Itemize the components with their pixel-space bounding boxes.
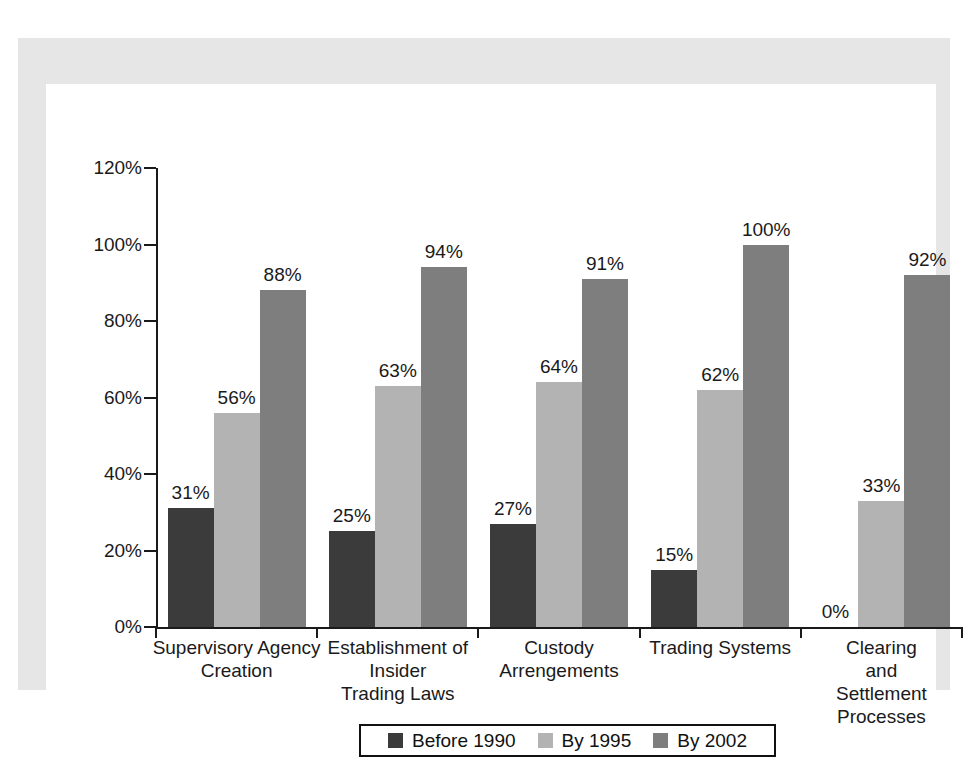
- category-label-line: Supervisory Agency: [153, 636, 321, 659]
- bar: [582, 279, 628, 627]
- bar-value-label: 56%: [218, 387, 256, 409]
- y-axis-tick-label: 80%: [46, 310, 142, 332]
- category-label-line: Establishment of: [328, 636, 468, 659]
- category-label-line: Processes: [836, 705, 927, 728]
- x-axis-tick: [961, 627, 963, 638]
- figure-panel: 0%20%40%60%80%100%120% 31%56%88%25%63%94…: [18, 38, 950, 690]
- bar: [168, 508, 214, 627]
- bar-value-label: 27%: [494, 498, 532, 520]
- plot-canvas: 0%20%40%60%80%100%120% 31%56%88%25%63%94…: [46, 84, 936, 718]
- bar: [421, 267, 467, 627]
- category-label-line: Trading Laws: [328, 682, 468, 705]
- bar-value-label: 62%: [701, 364, 739, 386]
- bar-value-label: 64%: [540, 356, 578, 378]
- bar: [904, 275, 950, 627]
- legend-item: Before 1990: [388, 730, 516, 752]
- bar-value-label: 63%: [379, 360, 417, 382]
- y-axis-tick-label: 40%: [46, 463, 142, 485]
- bar-value-label: 88%: [264, 264, 302, 286]
- chart-legend: Before 1990By 1995By 2002: [359, 724, 776, 757]
- category-label-line: Arrengements: [499, 659, 618, 682]
- legend-item: By 2002: [653, 730, 747, 752]
- bar: [214, 413, 260, 627]
- x-axis-category-label: Establishment ofInsiderTrading Laws: [328, 636, 468, 705]
- bar: [329, 531, 375, 627]
- bar: [651, 570, 697, 627]
- bar: [536, 382, 582, 627]
- bar-value-label: 0%: [822, 601, 849, 623]
- bar-value-label: 91%: [586, 253, 624, 275]
- y-axis-tick-label: 60%: [46, 387, 142, 409]
- x-axis-line: [156, 627, 962, 629]
- x-axis-category-label: Supervisory AgencyCreation: [153, 636, 321, 682]
- x-axis-tick: [800, 627, 802, 638]
- y-axis-tick: [144, 473, 156, 475]
- legend-swatch: [653, 733, 668, 748]
- category-label-line: Settlement: [836, 682, 927, 705]
- x-axis-category-label: Trading Systems: [649, 636, 791, 659]
- y-axis-tick-label: 20%: [46, 540, 142, 562]
- bar-value-label: 92%: [908, 249, 946, 271]
- bar: [697, 390, 743, 627]
- y-axis-tick-label: 120%: [46, 157, 142, 179]
- y-axis-tick-label: 100%: [46, 234, 142, 256]
- y-axis-tick: [144, 167, 156, 169]
- bar-value-label: 25%: [333, 505, 371, 527]
- bar: [858, 501, 904, 627]
- y-axis-tick: [144, 320, 156, 322]
- category-label-line: Insider: [328, 659, 468, 682]
- category-label-line: Trading Systems: [649, 636, 791, 659]
- y-axis-tick: [144, 397, 156, 399]
- x-axis-tick: [477, 627, 479, 638]
- bar-value-label: 15%: [655, 544, 693, 566]
- legend-label: By 1995: [562, 730, 632, 752]
- y-axis-tick: [144, 550, 156, 552]
- y-axis-tick-label: 0%: [46, 616, 142, 638]
- bar-value-label: 31%: [172, 482, 210, 504]
- legend-swatch: [538, 733, 553, 748]
- legend-item: By 1995: [538, 730, 632, 752]
- bar: [743, 245, 789, 628]
- x-axis-tick: [639, 627, 641, 638]
- bar: [490, 524, 536, 627]
- bars-area: 31%56%88%25%63%94%27%64%91%15%62%100%0%3…: [156, 168, 962, 627]
- category-label-line: Custody: [499, 636, 618, 659]
- category-label-line: Creation: [153, 659, 321, 682]
- legend-label: Before 1990: [412, 730, 516, 752]
- legend-label: By 2002: [677, 730, 747, 752]
- x-axis-category-label: Clearing andSettlementProcesses: [836, 636, 927, 728]
- bar-value-label: 33%: [862, 475, 900, 497]
- bar: [375, 386, 421, 627]
- y-axis-tick: [144, 244, 156, 246]
- bar-value-label: 94%: [425, 241, 463, 263]
- bar-value-label: 100%: [742, 219, 791, 241]
- category-label-line: Clearing and: [836, 636, 927, 682]
- bar: [260, 290, 306, 627]
- legend-swatch: [388, 733, 403, 748]
- x-axis-category-label: CustodyArrengements: [499, 636, 618, 682]
